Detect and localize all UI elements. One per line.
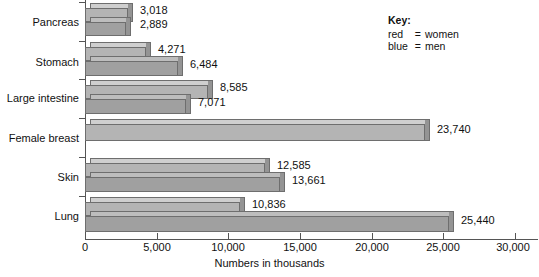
x-axis-tick-label: 30,000 [496, 242, 530, 253]
legend-label-women: women [425, 28, 462, 41]
legend-equals: = [411, 40, 425, 53]
x-axis-tick-label: 0 [82, 242, 88, 253]
legend-entry-women: red = women [388, 28, 462, 41]
legend: Key: red = women blue = men [388, 14, 462, 53]
category-label-pancreas: Pancreas [33, 17, 79, 28]
value-label-lung-women: 10,836 [252, 199, 286, 210]
legend-title: Key: [388, 14, 462, 27]
value-label-skin-women: 12,585 [277, 160, 311, 171]
x-axis-tick [515, 233, 516, 240]
x-axis-tick-label: 25,000 [426, 242, 460, 253]
category-label-lung: Lung [55, 211, 79, 222]
value-label-stomach-men: 6,484 [190, 59, 218, 70]
bar-front-face [85, 99, 186, 114]
value-label-lung-men: 25,440 [461, 215, 495, 226]
x-axis-tick [300, 233, 301, 240]
value-label-large-intestine-women: 8,585 [220, 82, 248, 93]
legend-entry-men: blue = men [388, 40, 462, 53]
bar-front-face [85, 22, 126, 36]
bar-large-intestine-men [85, 99, 186, 114]
legend-color-name-men: blue [388, 40, 411, 53]
x-axis-tick [157, 233, 158, 240]
bar-front-face [85, 177, 280, 192]
legend-entries: red = women blue = men [388, 28, 462, 53]
bar-front-face [85, 124, 425, 141]
bar-stomach-men [85, 61, 178, 76]
bar-side-face [425, 119, 430, 141]
x-axis-tick-label: 5,000 [143, 242, 171, 253]
bar-pancreas-men [85, 22, 126, 36]
x-axis-line [85, 239, 538, 240]
category-axis: Pancreas Stomach Large intestine Female … [0, 0, 79, 240]
x-axis-tick [228, 233, 229, 240]
value-label-skin-men: 13,661 [292, 175, 326, 186]
x-axis-tick [443, 233, 444, 240]
category-label-skin: Skin [58, 172, 79, 183]
legend-label-men: men [425, 40, 462, 53]
bar-female-breast-women [85, 124, 425, 141]
value-label-female-breast-women: 23,740 [437, 124, 471, 135]
value-label-large-intestine-men: 7,071 [198, 97, 226, 108]
bar-side-face [280, 172, 285, 192]
category-label-large-intestine: Large intestine [7, 93, 79, 104]
bar-side-face [449, 211, 454, 232]
x-axis-tick-label: 10,000 [211, 242, 245, 253]
value-label-pancreas-men: 2,889 [140, 19, 168, 30]
bar-front-face [85, 61, 178, 76]
x-axis-tick-label: 20,000 [355, 242, 389, 253]
x-axis-tick [85, 233, 86, 240]
bar-side-face [178, 56, 183, 76]
x-axis-tick-label: 15,000 [283, 242, 317, 253]
legend-color-name-women: red [388, 28, 411, 41]
bar-side-face [126, 17, 131, 36]
bar-chart: Pancreas Stomach Large intestine Female … [0, 0, 539, 277]
category-label-female-breast: Female breast [9, 133, 79, 144]
bar-lung-men [85, 216, 449, 232]
x-axis-tick [372, 233, 373, 240]
bar-side-face [186, 94, 191, 114]
bar-front-face [85, 216, 449, 232]
legend-equals: = [411, 28, 425, 41]
plot-area: 3,018 2,889 4,271 6,484 8,585 [85, 0, 539, 240]
category-label-stomach: Stomach [36, 57, 79, 68]
bar-skin-men [85, 177, 280, 192]
value-label-stomach-women: 4,271 [158, 44, 186, 55]
value-label-pancreas-women: 3,018 [140, 5, 168, 16]
x-axis-title: Numbers in thousands [0, 258, 539, 269]
